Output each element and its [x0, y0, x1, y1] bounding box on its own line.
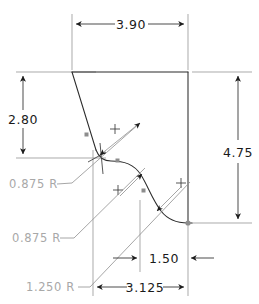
part-outline — [72, 72, 192, 223]
outline-slant-edge — [72, 72, 96, 150]
leader-radius-middle-slant — [74, 168, 145, 238]
leader-radius-upper-pointer — [100, 126, 136, 155]
center-mark-upper — [110, 124, 120, 134]
node-marker-upper-tangent — [116, 159, 120, 163]
dimension-label-overall-width: 3.90 — [116, 17, 146, 32]
node-marker-mid-tangent — [142, 189, 146, 193]
leader-radius-middle-pointer — [120, 174, 142, 196]
engineering-drawing: 3.90 2.80 4.75 1.50 3.125 0.875 R 0.875 … — [0, 0, 259, 304]
arc-center-marks — [88, 124, 186, 195]
center-mark-middle — [113, 185, 123, 195]
dimension-label-lower-width: 3.125 — [126, 280, 165, 295]
center-mark-tangent-cross — [88, 143, 106, 174]
radius-label-lower: 1.250 R — [26, 280, 75, 294]
radius-label-upper: 0.875 R — [9, 177, 58, 191]
leader-radius-lower-pointer — [157, 186, 182, 211]
dimension-label-upper-height: 2.80 — [8, 112, 38, 127]
dimension-lines — [23, 24, 238, 287]
cad-canvas: 3.90 2.80 4.75 1.50 3.125 0.875 R 0.875 … — [0, 0, 259, 304]
leader-radius-upper — [57, 183, 72, 184]
leader-radius-upper-slant — [72, 123, 140, 183]
extension-lines — [16, 14, 252, 296]
node-marker-end-point — [185, 220, 190, 225]
dimension-label-overall-height: 4.75 — [223, 145, 253, 160]
node-marker-slant — [85, 133, 89, 137]
outline-s-curve — [96, 150, 188, 223]
radius-label-middle: 0.875 R — [12, 231, 61, 245]
dimension-label-lower-right-offset: 1.50 — [149, 251, 179, 266]
